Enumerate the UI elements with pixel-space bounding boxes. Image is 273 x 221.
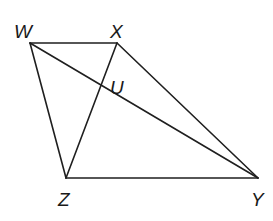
label-y: Y [251, 189, 265, 210]
label-u: U [110, 77, 124, 98]
segment-xz [66, 43, 117, 178]
label-x: X [109, 21, 124, 42]
geometry-diagram: W X U Z Y [0, 0, 273, 221]
segment-wz [30, 43, 66, 178]
label-w: W [14, 21, 34, 42]
label-z: Z [57, 189, 71, 210]
segment-wy [30, 43, 258, 178]
segment-xy [117, 43, 258, 178]
